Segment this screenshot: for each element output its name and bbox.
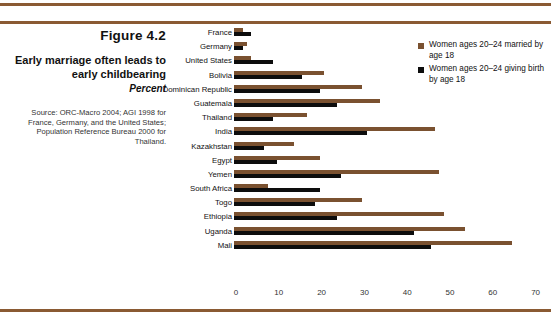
bar-row: [234, 168, 534, 182]
bar-birth: [234, 216, 337, 220]
bar-birth: [234, 60, 273, 64]
category-label: Ethiopia: [150, 210, 232, 224]
category-label: Dominican Republic: [150, 83, 232, 97]
axis-tick-label: 70: [531, 288, 540, 297]
bar-row: [234, 54, 534, 68]
bar-row: [234, 26, 534, 40]
category-label: India: [150, 125, 232, 139]
axis-tick-label: 30: [360, 288, 369, 297]
top-rule-upper: [0, 3, 551, 6]
bar-birth: [234, 146, 264, 150]
bar-row: [234, 225, 534, 239]
category-label: United States: [150, 54, 232, 68]
x-axis: 010203040506070: [234, 288, 551, 310]
category-label: Mali: [150, 239, 232, 253]
bar-row: [234, 97, 534, 111]
category-label: Uganda: [150, 225, 232, 239]
category-label: Bolivia: [150, 69, 232, 83]
bar-birth: [234, 103, 337, 107]
axis-tick-label: 10: [274, 288, 283, 297]
bar-birth: [234, 202, 315, 206]
bar-row: [234, 125, 534, 139]
category-label: Germany: [150, 40, 232, 54]
bar-birth: [234, 131, 367, 135]
category-label: Kazakhstan: [150, 140, 232, 154]
top-rule-lower: [0, 21, 551, 24]
bar-birth: [234, 32, 251, 36]
category-label: Togo: [150, 196, 232, 210]
chart-area: FranceGermanyUnited StatesBoliviaDominic…: [0, 26, 551, 288]
category-label: France: [150, 26, 232, 40]
bar-birth: [234, 46, 243, 50]
bar-birth: [234, 174, 341, 178]
bar-row: [234, 239, 534, 253]
category-label-list: FranceGermanyUnited StatesBoliviaDominic…: [150, 26, 232, 253]
axis-tick-label: 20: [317, 288, 326, 297]
bar-row: [234, 40, 534, 54]
bar-row: [234, 182, 534, 196]
bar-row: [234, 111, 534, 125]
figure-page: Figure 4.2 Early marriage often leads to…: [0, 0, 551, 312]
bar-row: [234, 196, 534, 210]
bar-row: [234, 210, 534, 224]
category-label: Thailand: [150, 111, 232, 125]
axis-tick-label: 50: [446, 288, 455, 297]
bar-plot: [234, 26, 534, 282]
category-label: South Africa: [150, 182, 232, 196]
axis-tick-label: 40: [403, 288, 412, 297]
bar-row: [234, 154, 534, 168]
bar-birth: [234, 160, 277, 164]
category-label: Yemen: [150, 168, 232, 182]
category-label: Guatemala: [150, 97, 232, 111]
bar-birth: [234, 231, 414, 235]
bar-row: [234, 140, 534, 154]
bar-row: [234, 69, 534, 83]
bar-row: [234, 83, 534, 97]
bar-birth: [234, 117, 273, 121]
axis-tick-label: 0: [234, 288, 238, 297]
bar-birth: [234, 75, 302, 79]
bar-birth: [234, 89, 320, 93]
axis-tick-label: 60: [488, 288, 497, 297]
category-label: Egypt: [150, 154, 232, 168]
bar-birth: [234, 245, 431, 249]
bar-birth: [234, 188, 320, 192]
